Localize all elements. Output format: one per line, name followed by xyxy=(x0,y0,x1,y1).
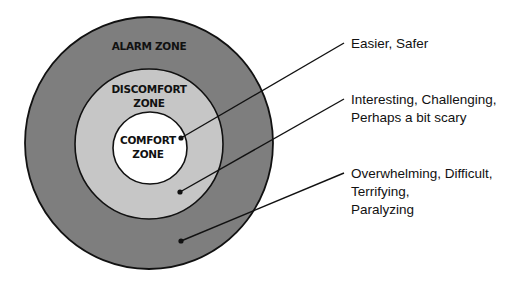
comfort-callout-dot xyxy=(178,135,183,140)
alarm-callout-dot xyxy=(178,238,183,243)
comfort-zone-diagram: ALARM ZONE DISCOMFORT ZONE COMFORT ZONE … xyxy=(0,0,520,285)
discomfort-callout-dot xyxy=(177,189,182,194)
comfort-zone-label-line2: ZONE xyxy=(132,148,163,160)
alarm-callout-text-line3: Paralyzing xyxy=(351,202,414,217)
alarm-callout-text-line2: Terrifying, xyxy=(351,184,410,199)
discomfort-callout-text-line1: Interesting, Challenging, xyxy=(351,92,497,107)
discomfort-zone-label-line2: ZONE xyxy=(133,97,164,109)
comfort-callout-text: Easier, Safer xyxy=(351,36,429,51)
comfort-zone-label-line1: COMFORT xyxy=(120,134,177,146)
alarm-zone-label: ALARM ZONE xyxy=(112,40,187,52)
discomfort-callout-text-line2: Perhaps a bit scary xyxy=(351,110,467,125)
alarm-callout-text-line1: Overwhelming, Difficult, xyxy=(351,166,493,181)
discomfort-zone-label-line1: DISCOMFORT xyxy=(111,83,187,95)
